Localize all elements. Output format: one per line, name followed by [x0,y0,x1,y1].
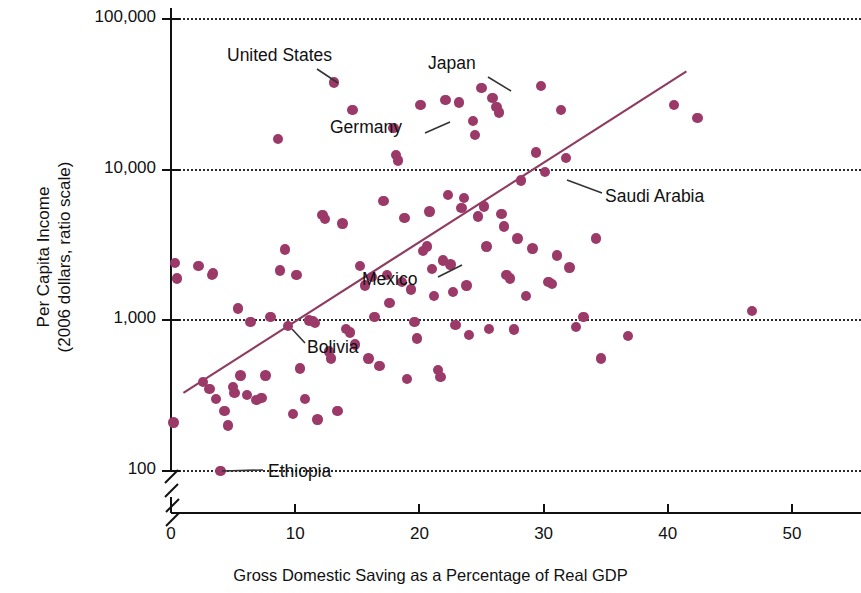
data-point [300,394,310,404]
data-point [312,414,322,424]
data-point [509,324,519,334]
y-tick-label-100: 100 [0,459,156,479]
data-point [219,406,229,416]
data-point [320,214,330,224]
data-point [168,417,178,427]
y-tick-mark [162,169,180,171]
data-point [499,221,509,231]
y-tick-mark [162,319,180,321]
gridline-y-10000 [171,169,861,171]
data-point [310,318,320,328]
x-axis-line [171,512,861,514]
data-point [527,243,537,253]
y-axis-stub [170,497,172,513]
data-point [402,374,412,384]
data-point [193,261,203,271]
x-tick-label-30: 30 [514,524,574,544]
data-point [481,241,491,251]
data-point [435,372,445,382]
y-axis-title: Per Capita Income (2006 dollars, ratio s… [33,107,75,407]
data-point [378,196,388,206]
data-point [484,324,494,334]
data-point [552,250,562,260]
data-point [669,100,679,110]
data-point [283,321,293,331]
data-point [464,330,474,340]
data-point [505,273,515,283]
data-point [473,211,483,221]
scatter-plot-figure: Per Capita Income (2006 dollars, ratio s… [0,0,861,593]
data-point [561,153,571,163]
data-point [476,83,486,93]
data-point [470,130,480,140]
data-point [564,262,574,272]
data-point [363,353,373,363]
data-point [332,406,342,416]
data-point [291,270,301,280]
data-point [235,370,245,380]
data-point [448,287,458,297]
annotation-label-bolivia: Bolivia [307,337,359,358]
data-point [422,241,432,251]
data-point [556,105,566,115]
x-tick-label-0: 0 [141,524,201,544]
data-point [204,384,214,394]
data-point [494,107,504,117]
data-point [443,190,453,200]
y-tick-label-1000: 1,000 [0,308,156,328]
data-point [288,409,298,419]
x-tick-mark [543,504,545,514]
x-tick-label-20: 20 [389,524,449,544]
data-point [374,361,384,371]
data-point [347,105,357,115]
x-tick-mark [667,504,669,514]
data-point [393,155,403,165]
data-point [540,167,550,177]
x-axis-title: Gross Domestic Saving as a Percentage of… [0,566,861,585]
data-point [450,320,460,330]
annotation-label-saudi-arabia: Saudi Arabia [605,186,704,207]
y-tick-mark [162,470,180,472]
data-point [591,233,601,243]
annotation-label-united-states: United States [227,45,332,66]
data-point [245,317,255,327]
data-point [242,390,252,400]
data-point [747,306,757,316]
data-point [692,113,702,123]
x-axis-title-text: Gross Domestic Saving as a Percentage of… [233,566,627,584]
x-tick-label-10: 10 [265,524,325,544]
data-point [337,218,347,228]
data-point [536,81,546,91]
data-point [275,265,285,275]
data-point [295,363,305,373]
data-point [256,393,266,403]
data-point [512,233,522,243]
data-point [229,388,239,398]
data-point [445,259,455,269]
annotation-label-japan: Japan [428,53,476,74]
y-tick-label-100000: 100,000 [0,7,156,27]
data-point [215,466,225,476]
data-point [424,206,434,216]
data-point [459,193,469,203]
data-point [496,209,506,219]
data-point [265,312,275,322]
data-point [273,134,283,144]
data-point [456,203,466,213]
data-point [596,353,606,363]
x-tick-mark [418,504,420,514]
data-point [329,77,339,87]
data-point [409,317,419,327]
data-point [578,312,588,322]
x-tick-label-50: 50 [762,524,822,544]
x-tick-label-40: 40 [638,524,698,544]
data-point [521,291,531,301]
data-point [170,258,180,268]
data-point [454,97,464,107]
annotation-label-germany: Germany [330,117,402,138]
x-tick-mark [294,504,296,514]
data-point [461,280,471,290]
y-tick-mark [162,18,180,20]
data-point [440,95,450,105]
annotation-label-mexico: Mexico [362,269,417,290]
